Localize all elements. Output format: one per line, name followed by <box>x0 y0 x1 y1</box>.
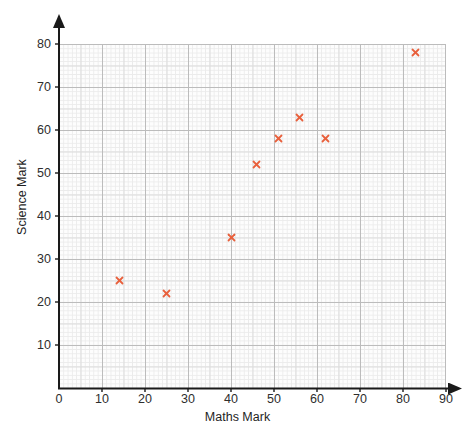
data-point <box>411 48 420 57</box>
x-axis-tick-label: 10 <box>95 392 109 406</box>
y-axis-tick-label: 60 <box>23 123 51 137</box>
data-point <box>115 276 124 285</box>
x-axis-tick-label: 60 <box>310 392 324 406</box>
x-axis-tick-label: 90 <box>439 392 453 406</box>
data-points-layer <box>59 44 446 388</box>
x-axis-tick-label: 80 <box>396 392 410 406</box>
y-axis-tick-label: 10 <box>23 338 51 352</box>
data-point <box>295 113 304 122</box>
x-axis-tick-label: 20 <box>138 392 152 406</box>
x-axis-tick-label: 40 <box>224 392 238 406</box>
x-axis-tick-label: 30 <box>181 392 195 406</box>
data-point <box>321 134 330 143</box>
data-point <box>274 134 283 143</box>
plot-area <box>59 44 446 388</box>
scatter-chart: 0102030405060708090 1020304050607080 Mat… <box>0 0 475 441</box>
data-point <box>252 160 261 169</box>
data-point <box>227 233 236 242</box>
y-axis-tick-label: 70 <box>23 80 51 94</box>
y-axis-tick-label: 20 <box>23 295 51 309</box>
data-point <box>162 289 171 298</box>
x-axis-tick-label: 50 <box>267 392 281 406</box>
x-axis-title: Maths Mark <box>0 410 475 424</box>
y-axis-tick-label: 80 <box>23 37 51 51</box>
x-axis-tick-label: 70 <box>353 392 367 406</box>
y-axis-title: Science Mark <box>15 137 29 257</box>
x-axis-tick-label: 0 <box>56 392 63 406</box>
